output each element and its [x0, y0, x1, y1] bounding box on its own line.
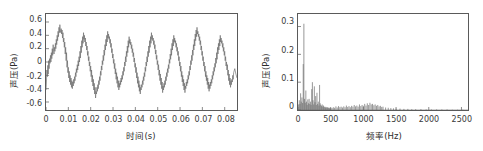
right-xtick-1: 500: [323, 116, 338, 124]
left-xtick-6: 0.06: [172, 116, 190, 124]
time-waveform-trace: [46, 14, 237, 110]
frequency-spectrum-panel: 0.3 0.2 0.1 0 0 500 1000 1500 2000 2500 …: [240, 0, 483, 151]
left-ytick-5: -0.4: [20, 86, 42, 94]
right-xtick-0: 0: [295, 116, 300, 124]
right-ytick-3: 0: [272, 103, 294, 111]
left-ytick-4: -0.2: [20, 73, 42, 81]
left-ytick-1: 0.4: [20, 30, 42, 38]
right-ytick-0: 0.3: [272, 18, 294, 26]
left-xtick-2: 0.02: [82, 116, 100, 124]
left-ytick-3: 0: [20, 58, 42, 66]
frequency-spectrum-bars: [298, 14, 468, 110]
left-xtick-8: 0.08: [217, 116, 235, 124]
right-xtick-2: 1000: [353, 116, 373, 124]
left-ytick-0: 0.6: [20, 16, 42, 24]
right-ytick-2: 0.1: [272, 75, 294, 83]
right-x-axis-title: 频率(Hz): [366, 132, 402, 141]
left-ytick-2: 0.2: [20, 43, 42, 51]
two-panel-acoustic-figure: 0.6 0.4 0.2 0 -0.2 -0.4 -0.6 0 0.01 0.02…: [0, 0, 483, 151]
right-xtick-5: 2500: [452, 116, 472, 124]
left-x-axis-title: 时间(s): [126, 132, 155, 141]
time-waveform-plot-area: [45, 13, 238, 111]
left-xtick-0: 0: [43, 116, 48, 124]
left-xtick-7: 0.07: [195, 116, 213, 124]
left-y-axis-title: 声压(Pa): [10, 53, 19, 88]
time-waveform-panel: 0.6 0.4 0.2 0 -0.2 -0.4 -0.6 0 0.01 0.02…: [0, 0, 240, 151]
frequency-spectrum-plot-area: [297, 13, 469, 111]
right-xtick-4: 2000: [419, 116, 439, 124]
right-ytick-1: 0.2: [272, 47, 294, 55]
left-ytick-6: -0.6: [20, 100, 42, 108]
right-y-axis-title: 声压(Pa): [262, 53, 271, 88]
right-xtick-3: 1500: [386, 116, 406, 124]
left-xtick-3: 0.03: [105, 116, 123, 124]
left-xtick-5: 0.05: [150, 116, 168, 124]
left-xtick-4: 0.04: [127, 116, 145, 124]
left-xtick-1: 0.01: [60, 116, 78, 124]
